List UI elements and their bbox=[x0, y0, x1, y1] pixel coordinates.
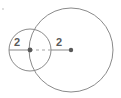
large-circle-radius-label: 2 bbox=[56, 37, 62, 48]
small-circle-center-dot bbox=[28, 48, 33, 53]
small-circle-radius-label: 2 bbox=[14, 37, 20, 48]
geometry-figure: 2 2 bbox=[0, 0, 121, 98]
large-circle-center-dot bbox=[69, 48, 73, 52]
figure-canvas bbox=[0, 0, 121, 98]
scan-artifact-top-left bbox=[2, 8, 4, 10]
